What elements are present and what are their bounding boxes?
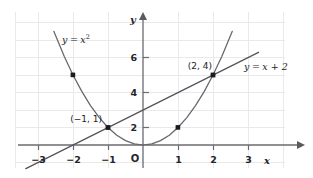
- x-tick-label: 3: [245, 154, 252, 165]
- y-axis-arrow-icon: [139, 12, 147, 20]
- point-marker-parabola-1-1: [176, 125, 181, 130]
- parabola-label-lhs: y: [61, 34, 68, 45]
- linear-equation-label: y=x + 2: [243, 61, 288, 72]
- x-axis-label: x: [263, 155, 271, 166]
- parabola-label-equals: =: [70, 34, 78, 45]
- x-tick-label: 1: [175, 154, 182, 165]
- plotted-curves: [26, 31, 259, 168]
- parabola-equation-label: y=x2: [61, 33, 90, 45]
- parabola-label-exponent: 2: [86, 33, 90, 41]
- x-tick-label: −1: [101, 154, 116, 165]
- y-tick-label: 6: [130, 52, 137, 63]
- x-tick-label: −3: [31, 154, 46, 165]
- point-marker-intersection-neg1-1: [106, 125, 111, 130]
- x-tick-label: 2: [210, 154, 217, 165]
- linear-label-lhs: y: [243, 61, 250, 72]
- graph-canvas: −3 −2 −1 1 2 3 2 4 6 O x y y=x2 y=x + 2 …: [0, 0, 313, 178]
- x-tick-label: −2: [66, 154, 81, 165]
- linear-label-equals: =: [252, 61, 260, 72]
- x-axis-tick-labels: −3 −2 −1 1 2 3: [31, 154, 252, 165]
- coordinate-graph-figure: −3 −2 −1 1 2 3 2 4 6 O x y y=x2 y=x + 2 …: [0, 0, 313, 178]
- y-axis-tick-labels: 2 4 6: [130, 52, 137, 133]
- y-axis-label: y: [129, 14, 137, 25]
- point-marker-parabola-neg2-4: [71, 73, 76, 78]
- intersection-label-right: (2, 4): [188, 61, 212, 71]
- origin-label: O: [131, 153, 140, 164]
- linear-label-rhs: x + 2: [262, 61, 287, 72]
- x-axis-arrow-icon: [297, 141, 305, 149]
- y-tick-label: 4: [130, 87, 137, 98]
- point-marker-intersection-2-4: [211, 73, 216, 78]
- intersection-label-left: (−1, 1): [70, 114, 102, 124]
- y-tick-label: 2: [130, 122, 137, 133]
